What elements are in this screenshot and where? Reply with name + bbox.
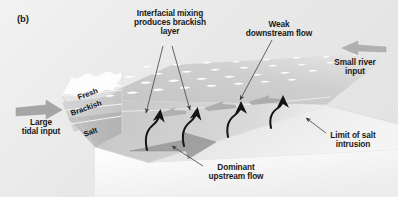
panel-label: (b): [17, 14, 29, 24]
estuary-diagram-figure: (b) Interfacial mixing produces brackish…: [0, 0, 398, 197]
label-dominant-upstream-flow: Dominant upstream flow: [194, 163, 278, 181]
label-small-river-input: Small river input: [318, 58, 392, 76]
label-interfacial-mixing: Interfacial mixing produces brackish lay…: [110, 9, 230, 36]
label-large-tidal-input: Large tidal input: [6, 118, 76, 136]
label-weak-downstream-flow: Weak downstream flow: [240, 20, 318, 38]
label-limit-of-salt-intrusion: Limit of salt intrusion: [316, 131, 390, 149]
